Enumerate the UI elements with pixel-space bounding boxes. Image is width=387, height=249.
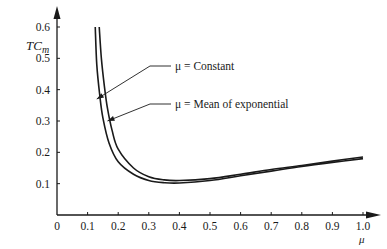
x-tick-label: 0.5 bbox=[203, 220, 218, 232]
arrowhead-icon bbox=[97, 93, 104, 99]
x-tick-label: 0.7 bbox=[264, 220, 279, 232]
x-tick-label: 0.3 bbox=[142, 220, 157, 232]
x-axis-label: μ bbox=[358, 233, 365, 245]
chart-container: 00.10.20.30.40.50.60.70.80.91.00.10.20.3… bbox=[0, 0, 387, 249]
y-axis-label: TCm bbox=[26, 38, 49, 55]
y-tick-label: 0.3 bbox=[36, 115, 51, 127]
x-tick-label: 0.8 bbox=[295, 220, 310, 232]
y-tick-label: 0.1 bbox=[36, 178, 51, 190]
annotation-constant: μ = Constant bbox=[175, 60, 235, 73]
x-tick-label: 1.0 bbox=[356, 220, 371, 232]
y-tick-label: 0.2 bbox=[36, 146, 51, 158]
x-tick-label: 0.9 bbox=[325, 220, 340, 232]
y-tick-label: 0.6 bbox=[36, 21, 51, 33]
annotation-exponential: μ = Mean of exponential bbox=[175, 98, 289, 111]
x-tick-label: 0 bbox=[54, 220, 60, 232]
axes: 00.10.20.30.40.50.60.70.80.91.00.10.20.3… bbox=[36, 6, 381, 232]
x-tick-label: 0.4 bbox=[172, 220, 187, 232]
annotation-leader bbox=[107, 104, 171, 121]
x-tick-label: 0.2 bbox=[111, 220, 126, 232]
y-tick-label: 0.4 bbox=[36, 84, 51, 96]
annotations: μ = Constantμ = Mean of exponential bbox=[97, 60, 289, 121]
line-chart: 00.10.20.30.40.50.60.70.80.91.00.10.20.3… bbox=[0, 0, 387, 249]
annotation-leader bbox=[97, 66, 171, 99]
y-axis-arrow-icon bbox=[54, 6, 61, 19]
x-axis-arrow-icon bbox=[366, 212, 381, 219]
x-tick-label: 0.1 bbox=[80, 220, 95, 232]
x-tick-label: 0.6 bbox=[233, 220, 248, 232]
